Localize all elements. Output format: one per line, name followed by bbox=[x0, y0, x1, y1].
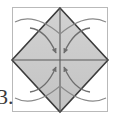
step-number-label: 3. bbox=[0, 86, 14, 108]
figure-canvas bbox=[0, 0, 115, 118]
origami-step-figure: 3. bbox=[0, 0, 115, 118]
